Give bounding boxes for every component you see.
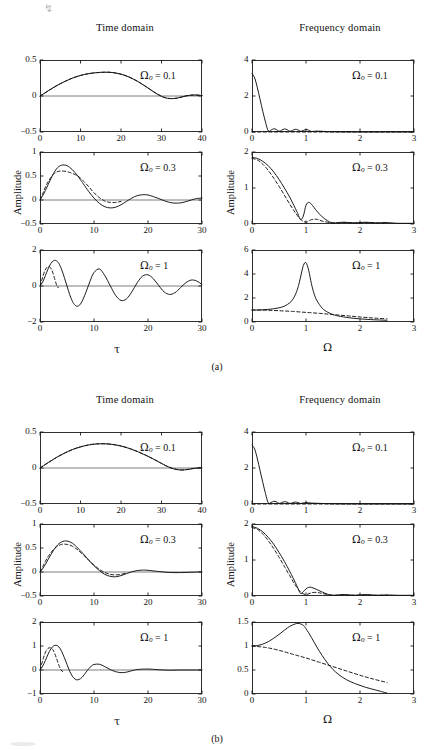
svg-text:0: 0 [250, 597, 255, 607]
svg-text:0: 0 [32, 194, 37, 204]
plot-a-freq-0.1: 0123024 [252, 60, 414, 132]
svg-text:−0.5: −0.5 [20, 218, 37, 228]
column-heading-freq-a: Frequency domain [265, 22, 415, 33]
annotation-omega-o: Ωo = 0.3 [352, 161, 388, 174]
column-heading-time-a: Time domain [55, 22, 195, 33]
svg-text:20: 20 [144, 323, 154, 333]
svg-text:30: 30 [198, 225, 208, 235]
svg-text:3: 3 [412, 323, 417, 333]
column-heading-time-b: Time domain [55, 394, 195, 405]
svg-text:2: 2 [244, 292, 249, 302]
plot-a-freq-1: 01230246 [252, 250, 414, 322]
svg-text:−0.5: −0.5 [20, 126, 37, 136]
column-heading-freq-b: Frequency domain [265, 394, 415, 405]
svg-text:4: 4 [244, 426, 249, 436]
svg-text:1: 1 [304, 133, 309, 143]
annotation-omega-o: Ωo = 1 [140, 631, 168, 644]
plot-a-freq-0.3: 0123012 [252, 152, 414, 224]
svg-text:0: 0 [244, 316, 249, 326]
svg-text:−1: −1 [27, 688, 37, 698]
svg-text:30: 30 [198, 695, 208, 705]
svg-text:1: 1 [32, 640, 37, 650]
svg-text:3: 3 [412, 133, 417, 143]
svg-text:1: 1 [304, 505, 309, 515]
svg-text:10: 10 [76, 505, 86, 515]
svg-text:4: 4 [244, 268, 249, 278]
svg-text:0: 0 [38, 225, 43, 235]
annotation-omega-o: Ωo = 1 [140, 259, 168, 272]
svg-text:2: 2 [358, 695, 363, 705]
svg-text:0: 0 [32, 90, 37, 100]
svg-text:1: 1 [32, 146, 37, 156]
svg-text:0: 0 [38, 323, 43, 333]
svg-text:0: 0 [250, 225, 255, 235]
svg-text:0: 0 [32, 462, 37, 472]
svg-text:0: 0 [32, 280, 37, 290]
svg-text:1: 1 [304, 695, 309, 705]
svg-text:3: 3 [412, 695, 417, 705]
svg-text:1: 1 [32, 518, 37, 528]
svg-text:0.5: 0.5 [25, 54, 37, 64]
svg-text:2: 2 [244, 90, 249, 100]
svg-text:30: 30 [157, 505, 167, 515]
svg-text:0: 0 [244, 126, 249, 136]
svg-text:2: 2 [358, 323, 363, 333]
annotation-omega-o: Ωo = 0.1 [352, 441, 388, 454]
svg-text:2: 2 [358, 597, 363, 607]
svg-text:30: 30 [157, 133, 167, 143]
svg-text:1: 1 [244, 182, 249, 192]
svg-text:−0.5: −0.5 [20, 498, 37, 508]
svg-text:0: 0 [38, 133, 43, 143]
annotation-omega-o: Ωo = 0.3 [140, 533, 176, 546]
plot-b-freq-0.1: 0123024 [252, 432, 414, 504]
svg-text:30: 30 [198, 597, 208, 607]
svg-text:1: 1 [244, 640, 249, 650]
scan-smudge [10, 742, 36, 746]
svg-text:−2: −2 [27, 316, 37, 326]
svg-text:2: 2 [32, 616, 37, 626]
svg-text:0: 0 [244, 590, 249, 600]
y-axis-label-freq-a: Amplitude [225, 170, 236, 215]
svg-text:0.5: 0.5 [25, 170, 37, 180]
svg-text:20: 20 [144, 597, 154, 607]
svg-text:3: 3 [412, 225, 417, 235]
x-axis-label-time-b: τ [114, 715, 120, 728]
y-axis-label-time-a: Amplitude [12, 170, 23, 215]
svg-text:0: 0 [38, 695, 43, 705]
svg-text:2: 2 [358, 225, 363, 235]
svg-text:20: 20 [144, 695, 154, 705]
panel-label-a: (a) [197, 361, 237, 372]
svg-text:1: 1 [304, 323, 309, 333]
plot-b-freq-0.3: 0123012 [252, 524, 414, 596]
plot-b-freq-1: 012300.511.5 [252, 622, 414, 694]
svg-text:2: 2 [244, 462, 249, 472]
plot-b-time-1: 0102030−1012 [40, 622, 202, 694]
svg-text:20: 20 [144, 225, 154, 235]
svg-text:0: 0 [32, 664, 37, 674]
figure-container: ↯ Time domain Frequency domain Amplitude… [0, 0, 434, 750]
svg-text:10: 10 [76, 133, 86, 143]
svg-text:1: 1 [304, 597, 309, 607]
svg-text:2: 2 [244, 518, 249, 528]
svg-text:2: 2 [358, 133, 363, 143]
panel-label-b: (b) [197, 733, 237, 744]
svg-text:0: 0 [244, 498, 249, 508]
annotation-omega-o: Ωo = 1 [352, 259, 380, 272]
plot-a-time-1: 0102030−202 [40, 250, 202, 322]
svg-text:1.5: 1.5 [237, 616, 249, 626]
annotation-omega-o: Ωo = 0.1 [140, 69, 176, 82]
svg-text:2: 2 [358, 505, 363, 515]
svg-text:0: 0 [244, 218, 249, 228]
svg-text:10: 10 [90, 323, 100, 333]
svg-text:3: 3 [412, 505, 417, 515]
x-axis-label-freq-a: Ω [323, 341, 332, 354]
annotation-omega-o: Ωo = 1 [352, 631, 380, 644]
svg-text:2: 2 [32, 244, 37, 254]
svg-text:0.5: 0.5 [237, 664, 249, 674]
svg-text:10: 10 [90, 225, 100, 235]
annotation-omega-o: Ωo = 0.3 [140, 161, 176, 174]
x-axis-label-freq-b: Ω [323, 713, 332, 726]
svg-text:20: 20 [117, 505, 127, 515]
svg-text:0: 0 [38, 505, 43, 515]
y-axis-label-freq-b: Amplitude [225, 542, 236, 587]
